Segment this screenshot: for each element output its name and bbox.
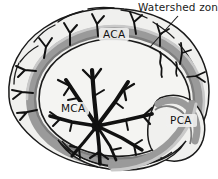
- territory-label-pca: PCA: [170, 114, 192, 126]
- territory-label-mca-group: MCA: [57, 102, 89, 115]
- brain-arterial-territory-figure: Watershed zone ACA MCA PCA: [0, 0, 218, 179]
- territory-label-mca: MCA: [61, 102, 86, 114]
- territory-label-pca-group: PCA: [166, 114, 197, 127]
- territory-label-aca-group: ACA: [99, 28, 129, 41]
- callout-label-watershed-zone: Watershed zone: [138, 1, 218, 13]
- territory-label-aca: ACA: [103, 28, 126, 40]
